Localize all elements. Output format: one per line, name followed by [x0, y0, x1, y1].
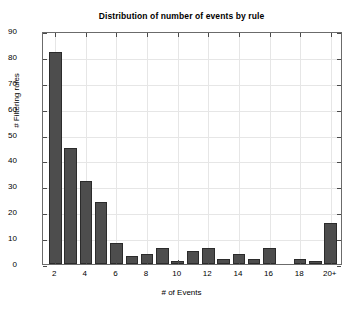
x-tick-mark [331, 33, 332, 37]
x-tick-mark [208, 33, 209, 37]
y-tick-label: 0 [0, 261, 17, 269]
x-tick-mark [147, 33, 148, 37]
x-tick-mark [270, 33, 271, 37]
y-tick-mark [337, 240, 341, 241]
x-tick-mark [178, 33, 179, 37]
y-tick-mark [337, 59, 341, 60]
x-tick-mark [239, 260, 240, 264]
x-tick-mark [55, 260, 56, 264]
y-tick-mark [43, 137, 47, 138]
chart-figure: Distribution of number of events by rule… [0, 0, 363, 318]
x-tick-mark [270, 260, 271, 264]
y-tick-mark [43, 111, 47, 112]
x-tick-mark [178, 260, 179, 264]
chart-title: Distribution of number of events by rule [0, 11, 363, 21]
x-tick-mark [300, 260, 301, 264]
bar [156, 248, 169, 264]
y-tick-mark [337, 188, 341, 189]
y-tick-mark [337, 33, 341, 34]
y-tick-label: 20 [0, 209, 17, 217]
x-tick-mark [86, 260, 87, 264]
y-tick-mark [43, 240, 47, 241]
y-tick-mark [43, 162, 47, 163]
bar [309, 261, 322, 264]
x-tick-mark [55, 33, 56, 37]
bar [248, 259, 261, 264]
y-tick-mark [337, 85, 341, 86]
bar-series [43, 33, 341, 264]
x-axis-title: # of Events [0, 288, 363, 297]
y-tick-mark [43, 266, 47, 267]
y-tick-mark [337, 162, 341, 163]
bar [49, 52, 62, 264]
y-tick-mark [337, 266, 341, 267]
y-tick-mark [43, 33, 47, 34]
x-tick-mark [147, 260, 148, 264]
x-tick-mark [208, 260, 209, 264]
y-tick-label: 30 [0, 183, 17, 191]
x-tick-mark [331, 260, 332, 264]
x-tick-label: 20+ [310, 270, 350, 278]
y-tick-mark [337, 111, 341, 112]
y-tick-label: 10 [0, 235, 17, 243]
bar [217, 259, 230, 264]
y-tick-mark [337, 137, 341, 138]
bar [126, 256, 139, 264]
plot-area [42, 32, 342, 265]
x-tick-mark [116, 33, 117, 37]
y-axis-title: # Filtering rules [12, 31, 21, 171]
bar [95, 202, 108, 264]
bar [324, 223, 337, 264]
bar [80, 181, 93, 264]
x-tick-mark [116, 260, 117, 264]
y-tick-mark [43, 85, 47, 86]
x-tick-mark [239, 33, 240, 37]
x-tick-mark [86, 33, 87, 37]
y-tick-mark [43, 59, 47, 60]
y-tick-mark [43, 188, 47, 189]
y-tick-mark [43, 214, 47, 215]
x-tick-mark [300, 33, 301, 37]
bar [64, 148, 77, 265]
y-tick-mark [337, 214, 341, 215]
bar [187, 251, 200, 264]
